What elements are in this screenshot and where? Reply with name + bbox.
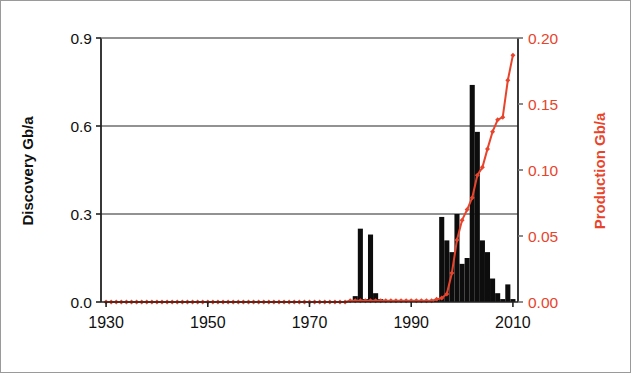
svg-text:1990: 1990: [393, 314, 429, 331]
svg-text:1950: 1950: [190, 314, 226, 331]
svg-text:0.3: 0.3: [70, 206, 92, 223]
svg-text:1930: 1930: [88, 314, 124, 331]
svg-text:0.10: 0.10: [528, 162, 559, 179]
svg-text:0.6: 0.6: [70, 118, 92, 135]
svg-text:0.05: 0.05: [528, 228, 558, 245]
figure-frame: 0.00.30.60.90.000.050.100.150.2019301950…: [0, 0, 631, 373]
svg-text:1970: 1970: [292, 314, 328, 331]
svg-text:0.15: 0.15: [528, 96, 558, 113]
gridlines: [101, 126, 518, 214]
right-axis-title: Production Gb/a: [591, 112, 608, 229]
svg-text:0.00: 0.00: [528, 294, 559, 311]
left-axis-title: Discovery Gb/a: [19, 116, 36, 226]
svg-text:0.9: 0.9: [70, 30, 92, 47]
svg-text:0.20: 0.20: [528, 30, 559, 47]
chart-canvas: 0.00.30.60.90.000.050.100.150.2019301950…: [1, 1, 631, 373]
production-line: [104, 53, 516, 305]
svg-text:0.0: 0.0: [70, 294, 92, 311]
discovery-bars: [353, 85, 516, 302]
discovery-production-chart: 0.00.30.60.90.000.050.100.150.2019301950…: [1, 1, 630, 372]
svg-text:2010: 2010: [495, 314, 531, 331]
